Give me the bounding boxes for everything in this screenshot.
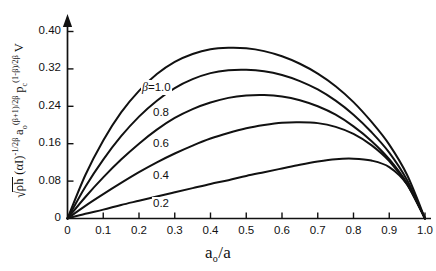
- y-axis-arrowhead: [63, 14, 72, 27]
- x-axis-tick-label: 0.8: [334, 224, 374, 236]
- beta-symbol: β: [142, 80, 148, 94]
- x-axis-tick-label: 0.4: [191, 224, 231, 236]
- x-axis-title-subscript: o: [213, 253, 218, 264]
- x-axis-tick-label: 1.0: [405, 224, 436, 236]
- x-axis-title: ao/a: [0, 243, 436, 264]
- x-axis-tick-label: 0.9: [369, 224, 409, 236]
- x-axis-tick-label: 0.5: [226, 224, 266, 236]
- y-axis-tick-label: 0.24: [18, 99, 61, 111]
- x-axis-tick-label: 0.2: [119, 224, 159, 236]
- x-axis-tick-label: 0.7: [298, 224, 338, 236]
- curve-label-1-0: β=1.0: [141, 80, 172, 95]
- x-axis-tick-label: 0: [48, 224, 88, 236]
- curve-label-0-2: 0.2: [152, 197, 170, 209]
- chart-figure: √ρh (αI)-1/2β ao(β+1)/2β pc(1-β)/2β V 00…: [0, 0, 436, 271]
- x-axis-tick-label: 0.3: [155, 224, 195, 236]
- y-axis-tick-label: 0.16: [18, 136, 61, 148]
- y-axis-tick-label: 0.08: [18, 174, 61, 186]
- curve-label-0-4: 0.4: [152, 169, 170, 181]
- y-axis-tick-label: 0.40: [18, 24, 61, 36]
- curve-label-0-8: 0.8: [152, 106, 170, 118]
- x-axis-tick-label: 0.1: [83, 224, 123, 236]
- curve-label-0-6: 0.6: [152, 137, 170, 149]
- curve-beta-0-2: [68, 159, 426, 219]
- curve-layer: [68, 48, 426, 219]
- y-axis-tick-label: 0: [18, 211, 61, 223]
- y-axis-tick-label: 0.32: [18, 61, 61, 73]
- x-axis-title-text: ao/a: [205, 243, 231, 262]
- x-axis-tick-label: 0.6: [262, 224, 302, 236]
